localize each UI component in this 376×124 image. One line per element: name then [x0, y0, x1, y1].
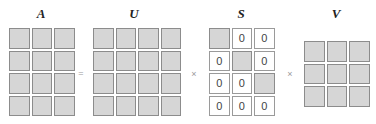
matrix-cell [32, 28, 53, 49]
matrix-cell [54, 28, 75, 49]
matrix-cell [138, 96, 159, 117]
matrix-cell [232, 51, 253, 72]
matrix-cell [349, 41, 370, 62]
matrix-cell [116, 28, 137, 49]
matrix-cell [32, 73, 53, 94]
matrix-cell [9, 96, 30, 117]
title-s: S [237, 6, 244, 22]
equals-operator: = [78, 68, 83, 78]
matrix-cell [304, 64, 325, 85]
matrix-cell [349, 64, 370, 85]
matrix-cell [138, 73, 159, 94]
matrix-cell: 0 [232, 96, 253, 117]
matrix-cell [327, 41, 348, 62]
matrix-cell [327, 86, 348, 107]
matrix-cell: 0 [232, 73, 253, 94]
matrix-cell: 0 [254, 28, 275, 49]
times-operator-2: × [287, 69, 292, 79]
matrix-cell [161, 73, 182, 94]
matrix-cell: 0 [209, 73, 230, 94]
matrix-cell [32, 96, 53, 117]
matrix-cell [161, 96, 182, 117]
matrix-cell [54, 73, 75, 94]
title-v: V [332, 6, 341, 22]
matrix-cell [54, 96, 75, 117]
matrix-s: 000000000 [209, 28, 275, 116]
matrix-cell [254, 73, 275, 94]
matrix-cell: 0 [232, 28, 253, 49]
matrix-cell: 0 [209, 51, 230, 72]
matrix-cell [138, 28, 159, 49]
matrix-cell [209, 28, 230, 49]
matrix-cell [9, 51, 30, 72]
matrix-cell [93, 28, 114, 49]
matrix-cell [32, 51, 53, 72]
matrix-cell [9, 28, 30, 49]
matrix-cell: 0 [254, 51, 275, 72]
matrix-cell [116, 51, 137, 72]
matrix-cell [9, 73, 30, 94]
times-operator-1: × [191, 69, 196, 79]
matrix-cell [54, 51, 75, 72]
matrix-cell [138, 51, 159, 72]
title-u: U [129, 6, 138, 22]
matrix-cell [327, 64, 348, 85]
matrix-cell [116, 73, 137, 94]
matrix-cell: 0 [254, 96, 275, 117]
matrix-cell [161, 28, 182, 49]
matrix-cell [304, 86, 325, 107]
matrix-cell [116, 96, 137, 117]
matrix-a [9, 28, 75, 116]
matrix-u [93, 28, 181, 116]
matrix-cell [161, 51, 182, 72]
matrix-cell [93, 96, 114, 117]
title-a: A [37, 6, 46, 22]
matrix-cell [349, 86, 370, 107]
matrix-cell [304, 41, 325, 62]
matrix-cell: 0 [209, 96, 230, 117]
matrix-cell [93, 51, 114, 72]
matrix-v [304, 41, 370, 107]
matrix-cell [93, 73, 114, 94]
